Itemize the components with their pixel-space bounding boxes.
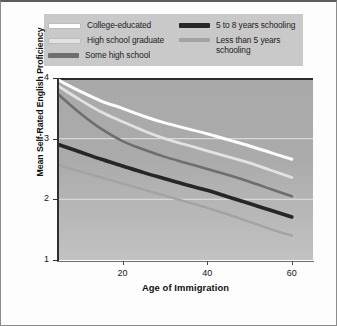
x-tick-mark-20: [123, 261, 124, 265]
legend-column-right: 5 to 8 years schooling Less than 5 years…: [179, 18, 301, 66]
legend-label-high-school-graduate: High school graduate: [87, 33, 164, 45]
legend-swatch-some-high-school: [48, 53, 79, 58]
series-line-5-to-8-years-schooling: [59, 145, 292, 217]
legend-item-5-to-8-years-schooling: 5 to 8 years schooling: [179, 18, 301, 33]
legend-item-college-educated: College-educated: [48, 18, 179, 33]
legend-swatch-less-than-5-years-schooling: [179, 38, 210, 42]
legend-swatch-5-to-8-years-schooling: [179, 23, 210, 28]
y-axis-line: [57, 78, 59, 262]
chart-legend: College-educated High school graduate So…: [44, 14, 303, 66]
plot-area: [59, 78, 313, 260]
legend-label-some-high-school: Some high school: [85, 48, 150, 60]
y-tick-mark-3: [53, 139, 57, 140]
legend-label-5-to-8-years-schooling: 5 to 8 years schooling: [216, 18, 295, 30]
legend-label-college-educated: College-educated: [87, 18, 151, 30]
legend-swatch-college-educated: [48, 23, 81, 29]
plot-lines: [59, 78, 313, 260]
y-axis-title: Mean Self-Rated English Proficiency: [35, 7, 45, 197]
y-tick-mark-2: [53, 199, 57, 200]
x-axis-line: [57, 261, 314, 262]
x-tick-label-60: 60: [280, 268, 304, 278]
x-tick-label-20: 20: [111, 268, 135, 278]
legend-item-high-school-graduate: High school graduate: [48, 33, 179, 48]
legend-column-left: College-educated High school graduate So…: [48, 18, 179, 66]
y-tick-label-1: 1: [35, 254, 49, 264]
x-axis-title: Age of Immigration: [57, 282, 314, 293]
y-tick-mark-4: [53, 78, 57, 79]
legend-label-less-than-5-years-schooling: Less than 5 years schooling: [216, 33, 280, 55]
series-line-less-than-5-years-schooling: [59, 165, 292, 235]
series-line-college-educated: [59, 80, 292, 159]
legend-item-some-high-school: Some high school: [48, 48, 179, 63]
legend-item-less-than-5-years-schooling: Less than 5 years schooling: [179, 33, 301, 59]
y-tick-mark-1: [53, 260, 57, 261]
series-line-high-school-graduate: [59, 86, 292, 177]
chart-figure: College-educated High school graduate So…: [0, 0, 337, 326]
x-tick-mark-60: [292, 261, 293, 265]
x-tick-label-40: 40: [195, 268, 219, 278]
legend-swatch-high-school-graduate: [48, 38, 81, 44]
x-tick-mark-40: [207, 261, 208, 265]
